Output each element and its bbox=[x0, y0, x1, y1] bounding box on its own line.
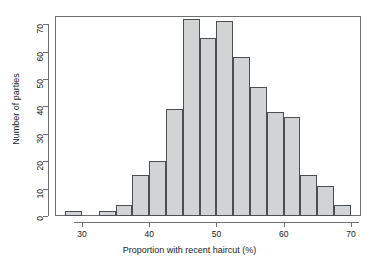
x-axis-tick bbox=[216, 222, 217, 227]
histogram-bar bbox=[65, 211, 82, 216]
x-axis-tick-label: 60 bbox=[272, 229, 296, 239]
histogram-bar bbox=[300, 175, 317, 216]
y-axis-tick-label: 70 bbox=[35, 24, 45, 33]
histogram-bar bbox=[267, 112, 284, 216]
histogram-bar bbox=[284, 117, 301, 216]
x-axis-tick bbox=[351, 222, 352, 227]
histogram-bar bbox=[116, 205, 133, 216]
y-axis-tick-label: 30 bbox=[35, 134, 45, 143]
histogram-figure: 010203040506070 Number of parties 304050… bbox=[0, 0, 379, 269]
histogram-bar bbox=[233, 57, 250, 216]
histogram-bar bbox=[149, 161, 166, 216]
x-axis-tick bbox=[284, 222, 285, 227]
histogram-bar bbox=[216, 21, 233, 216]
x-axis-tick-label: 30 bbox=[70, 229, 94, 239]
histogram-bar bbox=[183, 19, 200, 216]
x-axis-tick-label: 40 bbox=[137, 229, 161, 239]
y-axis-tick-label: 50 bbox=[35, 79, 45, 88]
x-axis-tick-label: 50 bbox=[204, 229, 228, 239]
y-axis-tick-label: 20 bbox=[35, 161, 45, 170]
histogram-bar bbox=[166, 109, 183, 216]
histogram-bar bbox=[200, 38, 217, 216]
histogram-bar bbox=[99, 211, 116, 216]
y-axis-tick-label: 0 bbox=[35, 216, 45, 221]
x-axis-tick-label: 70 bbox=[339, 229, 363, 239]
histogram-bar bbox=[250, 87, 267, 216]
histogram-bars bbox=[55, 16, 361, 216]
histogram-bar bbox=[317, 186, 334, 216]
x-axis-tick bbox=[82, 222, 83, 227]
y-axis-tick-label: 60 bbox=[35, 52, 45, 61]
y-axis-tick-label: 40 bbox=[35, 106, 45, 115]
x-axis-title: Proportion with recent haircut (%) bbox=[0, 245, 379, 255]
y-axis-tick-label: 10 bbox=[35, 189, 45, 198]
x-axis-tick bbox=[149, 222, 150, 227]
histogram-bar bbox=[334, 205, 351, 216]
histogram-bar bbox=[132, 175, 149, 216]
y-axis-line bbox=[48, 24, 49, 216]
y-axis-title: Number of parties bbox=[11, 49, 21, 169]
